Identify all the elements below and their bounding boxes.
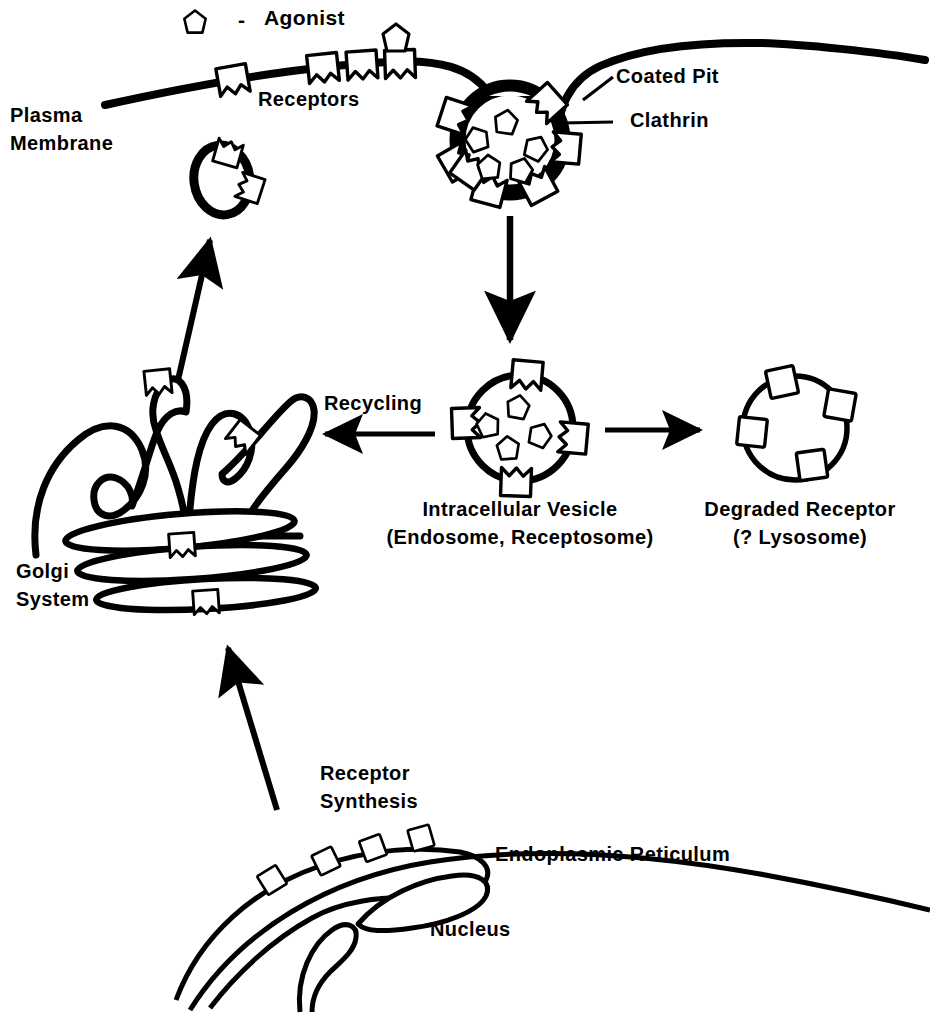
- plasma-membrane-label-line1: Plasma: [10, 104, 82, 128]
- endoplasmic-reticulum-label: Endoplasmic Reticulum: [495, 843, 730, 867]
- degraded-receptor-label-line2: (? Lysosome): [680, 526, 920, 550]
- legend-agonist-label: Agonist: [264, 6, 345, 31]
- leader-clathrin-line: [562, 122, 613, 123]
- golgi-system-shape: [35, 379, 317, 615]
- golgi-label-line1: Golgi: [16, 560, 69, 584]
- diagram-canvas: - Agonist Plasma Membrane Receptors Coat…: [0, 0, 930, 1023]
- receptor-synthesis-label-line2: Synthesis: [320, 790, 418, 814]
- free-agonist: [383, 24, 409, 51]
- clathrin-label: Clathrin: [630, 109, 709, 133]
- arrow-golgi-to-membrane: [178, 240, 210, 380]
- arrow-er-to-golgi: [228, 648, 277, 810]
- degraded-receptor-label-line1: Degraded Receptor: [680, 498, 920, 522]
- recycling-label: Recycling: [324, 392, 422, 416]
- golgi-label-line2: System: [16, 588, 90, 612]
- legend-dash: -: [238, 8, 245, 33]
- coated-pit-label: Coated Pit: [616, 65, 719, 89]
- intracellular-vesicle-label-line2: (Endosome, Receptosome): [350, 526, 690, 550]
- nucleus-label: Nucleus: [430, 918, 511, 942]
- agonist-legend-icon: [184, 11, 205, 33]
- receptors-label: Receptors: [258, 88, 359, 112]
- plasma-membrane-label-line2: Membrane: [10, 132, 113, 156]
- receptor-synthesis-label-line1: Receptor: [320, 762, 410, 786]
- intracellular-vesicle-label-line1: Intracellular Vesicle: [350, 498, 690, 522]
- leader-coated-pit-line: [583, 77, 613, 100]
